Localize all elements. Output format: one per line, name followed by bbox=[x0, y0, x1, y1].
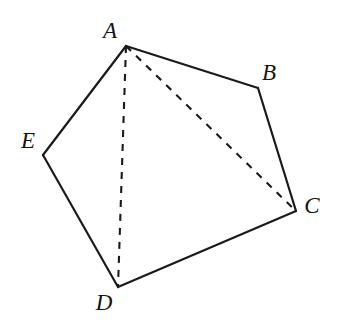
edge-ea bbox=[43, 46, 126, 155]
vertex-label-c: C bbox=[304, 194, 319, 217]
geometry-figure: ABCDE bbox=[0, 0, 340, 325]
diagonal-ad bbox=[118, 46, 126, 287]
edge-ab bbox=[126, 46, 258, 88]
pentagon-outline bbox=[43, 46, 296, 287]
vertex-label-d: D bbox=[96, 291, 113, 314]
edge-de bbox=[43, 155, 118, 287]
edge-cd bbox=[118, 211, 296, 287]
pentagon-diagram-canvas bbox=[0, 0, 340, 325]
vertex-label-e: E bbox=[21, 129, 35, 152]
vertex-label-b: B bbox=[262, 61, 276, 84]
vertex-label-a: A bbox=[103, 19, 117, 42]
